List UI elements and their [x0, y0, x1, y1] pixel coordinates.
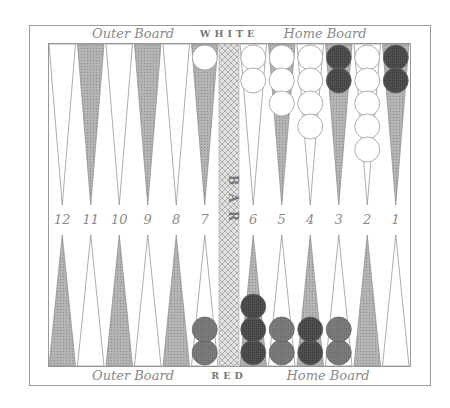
backgammon-board: BAR 121110987654321 Outer Board WHITE Ho… — [0, 0, 450, 408]
white-checker[interactable] — [298, 68, 323, 93]
white-checker[interactable] — [269, 45, 294, 70]
point-number-7: 7 — [201, 212, 210, 227]
white-checker[interactable] — [269, 68, 294, 93]
white-player-label: WHITE — [199, 28, 258, 39]
darkred-checker[interactable] — [241, 317, 266, 342]
point-number-2: 2 — [362, 212, 371, 227]
white-checker[interactable] — [269, 91, 294, 116]
point-number-6: 6 — [249, 212, 257, 227]
red-checker[interactable] — [192, 317, 217, 342]
top-outer-board-label: Outer Board — [92, 26, 174, 41]
red-checker[interactable] — [326, 340, 351, 365]
white-checker[interactable] — [241, 68, 266, 93]
bar-letter: B — [226, 175, 240, 185]
point-number-5: 5 — [278, 212, 286, 227]
point-number-1: 1 — [392, 212, 400, 227]
bar-letter: A — [226, 192, 240, 203]
white-checker[interactable] — [241, 45, 266, 70]
white-checker[interactable] — [192, 45, 217, 70]
point-number-12: 12 — [54, 212, 71, 227]
darkred-checker[interactable] — [298, 317, 323, 342]
red-checker[interactable] — [326, 317, 351, 342]
point-number-9: 9 — [144, 212, 152, 227]
darkred-checker[interactable] — [383, 45, 408, 70]
white-checker[interactable] — [298, 114, 323, 139]
white-checker[interactable] — [355, 68, 380, 93]
bottom-outer-board-label: Outer Board — [92, 368, 174, 383]
bottom-home-board-label: Home Board — [286, 368, 370, 383]
point-number-3: 3 — [335, 212, 343, 227]
bar[interactable] — [219, 44, 239, 366]
point-number-10: 10 — [111, 212, 128, 227]
bar-letter: R — [226, 211, 240, 222]
white-checker[interactable] — [298, 45, 323, 70]
darkred-checker[interactable] — [326, 68, 351, 93]
white-checker[interactable] — [355, 137, 380, 162]
darkred-checker[interactable] — [326, 45, 351, 70]
point-number-4: 4 — [305, 212, 314, 227]
white-checker[interactable] — [355, 45, 380, 70]
darkred-checker[interactable] — [383, 68, 408, 93]
red-checker[interactable] — [192, 340, 217, 365]
white-checker[interactable] — [355, 91, 380, 116]
point-number-11: 11 — [82, 212, 99, 227]
red-checker[interactable] — [269, 317, 294, 342]
white-checker[interactable] — [298, 91, 323, 116]
darkred-checker[interactable] — [241, 294, 266, 319]
darkred-checker[interactable] — [241, 340, 266, 365]
red-player-label: RED — [211, 370, 246, 381]
white-checker[interactable] — [355, 114, 380, 139]
red-checker[interactable] — [269, 340, 294, 365]
point-number-8: 8 — [172, 212, 180, 227]
bar-label: BAR — [226, 175, 240, 222]
top-home-board-label: Home Board — [283, 26, 367, 41]
darkred-checker[interactable] — [298, 340, 323, 365]
